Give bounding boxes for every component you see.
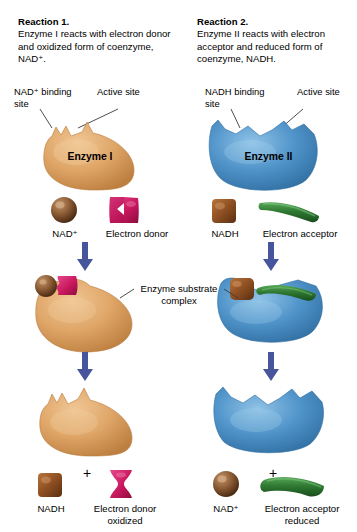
enzyme-2-free-shape bbox=[212, 386, 334, 452]
product-label-electron-acceptor-reduced: Electron acceptor reduced bbox=[252, 503, 352, 527]
reactant-label-nad-plus: NAD⁺ bbox=[34, 228, 96, 240]
electron-acceptor-reduced-shape bbox=[258, 472, 328, 500]
reaction2-description: Enzyme II reacts with electron acceptor … bbox=[197, 28, 357, 65]
plus-symbol-left: + bbox=[83, 466, 91, 480]
arrow-right-2 bbox=[262, 352, 280, 382]
reaction2-heading: Reaction 2. Enzyme II reacts with electr… bbox=[197, 16, 357, 66]
nad-plus-sphere-product bbox=[212, 470, 242, 500]
enzyme-1-free-shape bbox=[28, 382, 148, 456]
electron-acceptor-shape bbox=[257, 198, 323, 226]
electron-donor-oxidized-shape bbox=[105, 468, 139, 500]
leader-lines-center bbox=[0, 280, 357, 310]
reaction1-description: Enzyme I reacts with electron donor and … bbox=[18, 28, 178, 65]
reaction2-title: Reaction 2. bbox=[197, 16, 357, 28]
nadh-cube-product bbox=[36, 470, 66, 500]
reaction1-title: Reaction 1. bbox=[18, 16, 178, 28]
enzyme-2-label: Enzyme II bbox=[206, 151, 331, 162]
product-label-electron-donor-oxidized: Electron donor oxidized bbox=[84, 503, 166, 527]
reactant-label-electron-acceptor: Electron acceptor bbox=[250, 228, 350, 240]
reactant-label-nadh: NADH bbox=[198, 228, 252, 240]
nad-plus-sphere-reactant bbox=[50, 196, 80, 226]
reactant-label-electron-donor: Electron donor bbox=[95, 228, 179, 240]
product-label-nad-plus: NAD⁺ bbox=[198, 503, 254, 515]
reaction1-heading: Reaction 1. Enzyme I reacts with electro… bbox=[18, 16, 178, 66]
electron-donor-shape bbox=[108, 194, 142, 226]
product-label-nadh: NADH bbox=[20, 503, 82, 515]
arrow-left-2 bbox=[76, 352, 94, 382]
nadh-cube-reactant bbox=[210, 196, 240, 226]
figure-canvas: Reaction 1. Enzyme I reacts with electro… bbox=[0, 0, 357, 532]
arrow-right-1 bbox=[262, 242, 280, 272]
enzyme-1-label: Enzyme I bbox=[30, 151, 150, 162]
